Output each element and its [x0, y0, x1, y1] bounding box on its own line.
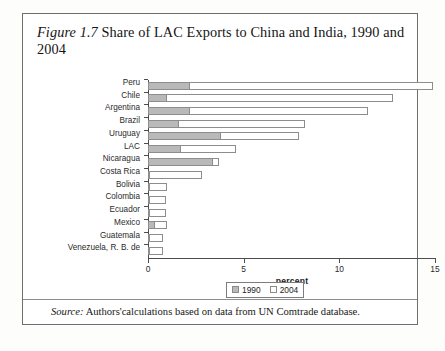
bar-row: Peru [148, 80, 435, 93]
bar-1990 [148, 145, 181, 153]
plot-region: PeruChileArgentinaBrazilUruguayLACNicara… [148, 80, 435, 258]
figure-frame: Figure 1.7 Share of LAC Exports to China… [22, 13, 418, 325]
bar-row: Colombia [148, 194, 435, 207]
bar-1990 [148, 196, 150, 204]
bar-1990 [148, 209, 150, 217]
bar-2004 [148, 94, 393, 102]
y-axis-label: Brazil [120, 116, 140, 125]
y-tick-mark [144, 219, 148, 220]
y-axis-label: Uruguay [109, 129, 140, 138]
legend-label-1990: 1990 [242, 285, 261, 295]
y-axis-label: Nicaragua [103, 154, 140, 163]
x-tick-label: 0 [146, 264, 151, 274]
bar-1990 [148, 82, 190, 90]
x-tick-mark [244, 259, 245, 263]
y-axis-label: Argentina [105, 103, 140, 112]
bar-1990 [148, 247, 150, 255]
y-axis-label: Colombia [105, 192, 140, 201]
bar-1990 [148, 158, 213, 166]
legend-label-2004: 2004 [280, 285, 299, 295]
y-axis-label: Guatemala [100, 231, 140, 240]
bar-row: Brazil [148, 118, 435, 131]
x-tick-label: 5 [241, 264, 246, 274]
bar-row: Costa Rica [148, 169, 435, 182]
y-tick-mark [144, 130, 148, 131]
legend-item-2004: 2004 [270, 285, 299, 295]
chart-legend: 1990 2004 [226, 282, 304, 298]
x-tick-mark [435, 259, 436, 263]
figure-number: Figure 1.7 [37, 24, 98, 40]
bar-row: LAC [148, 144, 435, 157]
x-axis-line [148, 258, 436, 259]
bar-2004 [148, 247, 163, 255]
legend-item-1990: 1990 [232, 285, 261, 295]
bar-2004 [148, 209, 166, 217]
y-tick-mark [144, 143, 148, 144]
bar-2004 [148, 196, 166, 204]
bar-1990 [148, 107, 190, 115]
bar-row: Mexico [148, 220, 435, 233]
y-tick-mark [144, 92, 148, 93]
legend-swatch-1990-icon [232, 286, 239, 293]
y-tick-mark [144, 104, 148, 105]
y-tick-mark [144, 79, 148, 80]
source-text: Authors'calculations based on data from … [84, 306, 360, 317]
bar-1990 [148, 183, 150, 191]
bar-row: Argentina [148, 105, 435, 118]
source-label: Source: [51, 306, 84, 317]
source-divider [23, 299, 417, 300]
bar-row: Uruguay [148, 131, 435, 144]
x-tick-mark [148, 259, 149, 263]
bar-2004 [148, 82, 433, 90]
bar-row: Nicaragua [148, 156, 435, 169]
bar-2004 [148, 183, 167, 191]
y-tick-mark [144, 232, 148, 233]
bar-2004 [148, 234, 163, 242]
y-axis-label: Ecuador [110, 205, 141, 214]
y-axis-label: Venezuela, R. B. de [68, 243, 140, 252]
bar-1990 [148, 120, 179, 128]
bar-1990 [148, 234, 150, 242]
figure-source: Source: Authors'calculations based on da… [51, 305, 396, 318]
bar-row: Ecuador [148, 207, 435, 220]
bar-row: Chile [148, 93, 435, 106]
y-tick-mark [144, 181, 148, 182]
y-tick-mark [144, 155, 148, 156]
bar-2004 [148, 171, 202, 179]
y-axis-label: Mexico [114, 218, 140, 227]
figure-page: Figure 1.7 Share of LAC Exports to China… [0, 0, 445, 351]
bar-1990 [148, 132, 221, 140]
y-axis-label: Bolivia [116, 180, 140, 189]
bar-1990 [148, 94, 167, 102]
legend-swatch-2004-icon [270, 286, 277, 293]
y-tick-mark [144, 206, 148, 207]
y-tick-mark [144, 193, 148, 194]
x-tick-label: 10 [335, 264, 344, 274]
y-tick-mark [144, 244, 148, 245]
bar-row: Bolivia [148, 182, 435, 195]
y-axis-label: Chile [121, 91, 140, 100]
x-tick-label: 15 [430, 264, 439, 274]
x-tick-mark [339, 259, 340, 263]
chart-area: PeruChileArgentinaBrazilUruguayLACNicara… [23, 72, 417, 290]
bar-row: Guatemala [148, 233, 435, 246]
y-tick-mark [144, 168, 148, 169]
figure-title: Figure 1.7 Share of LAC Exports to China… [37, 24, 405, 58]
bar-1990 [148, 221, 155, 229]
bar-row: Venezuela, R. B. de [148, 245, 435, 258]
y-tick-mark [144, 117, 148, 118]
y-axis-label: LAC [124, 142, 140, 151]
y-axis-label: Costa Rica [100, 167, 140, 176]
y-axis-label: Peru [123, 78, 140, 87]
bar-1990 [148, 171, 150, 179]
